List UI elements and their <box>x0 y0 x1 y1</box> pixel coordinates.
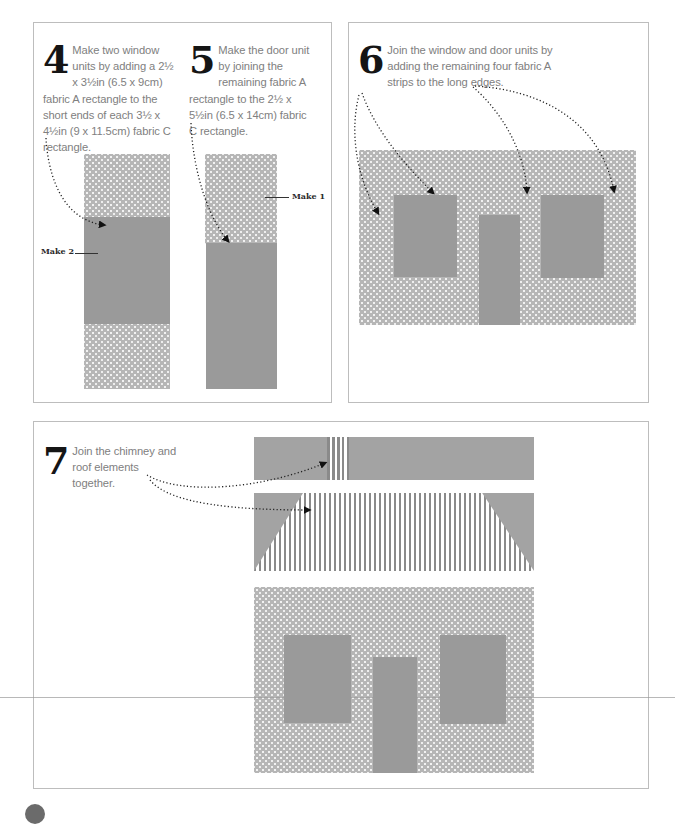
final-door <box>373 657 417 773</box>
step-4-instruction: 4 Make two window units by adding a 2½ x… <box>43 42 178 155</box>
section-badge-icon <box>25 804 45 824</box>
step-6-instruction: 6 Join the window and door units by addi… <box>358 42 562 91</box>
right-window <box>541 195 604 278</box>
step-number-7: 7 <box>43 446 69 476</box>
window-unit-fabric-c <box>84 217 170 325</box>
make-1-leader-line <box>265 197 289 198</box>
make-1-label: Make 1 <box>292 191 325 201</box>
make-2-leader-line <box>75 253 98 254</box>
chimney-stripe-fabric <box>327 437 349 480</box>
door <box>479 215 520 325</box>
step-7-text: Join the chimney and roof elements toget… <box>72 445 176 489</box>
window-unit-bottom-fabric-a <box>84 324 170 389</box>
left-window <box>394 195 457 277</box>
final-left-window <box>284 635 351 723</box>
door-unit-top-fabric-a <box>205 154 277 244</box>
step-5-instruction: 5 Make the door unit by joining the rema… <box>189 42 311 139</box>
chimney-strip-fabric <box>254 437 534 480</box>
step-number-4: 4 <box>43 45 69 75</box>
step-6-text: Join the window and door units by adding… <box>387 44 552 88</box>
final-right-window <box>440 635 506 724</box>
window-unit-top-fabric-a <box>84 154 170 218</box>
step-number-6: 6 <box>358 45 384 75</box>
inner-fold-line <box>284 669 506 670</box>
step-number-5: 5 <box>189 45 215 75</box>
make-2-label: Make 2 <box>41 246 74 256</box>
step-7-instruction: 7 Join the chimney and roof elements tog… <box>43 443 178 492</box>
page-fold-line <box>0 697 675 698</box>
door-unit-fabric-c <box>206 243 277 389</box>
